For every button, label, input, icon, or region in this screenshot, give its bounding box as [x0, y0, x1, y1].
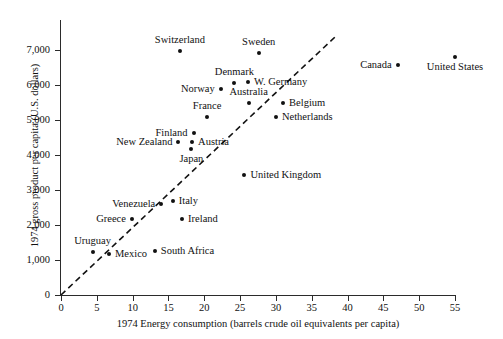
- data-point-label: Japan: [179, 154, 203, 165]
- x-tick-mark: [133, 296, 134, 301]
- y-tick-mark: [55, 190, 61, 191]
- x-tick-label: 35: [292, 303, 332, 314]
- data-point-label: Netherlands: [282, 111, 333, 122]
- x-tick-label: 50: [399, 303, 439, 314]
- y-tick-mark: [55, 260, 61, 261]
- x-tick-label: 25: [220, 303, 260, 314]
- y-tick-label: 3,000: [0, 185, 50, 196]
- data-point: [219, 87, 223, 91]
- x-axis-title: 1974 Energy consumption (barrels crude o…: [60, 318, 456, 329]
- data-point-label: Norway: [181, 83, 215, 94]
- data-point-label: United States: [427, 62, 483, 73]
- x-tick-mark: [204, 296, 205, 301]
- data-point: [178, 49, 182, 53]
- data-point: [281, 101, 285, 105]
- data-point-label: Belgium: [289, 98, 325, 109]
- data-point-label: Italy: [179, 196, 198, 207]
- x-tick-label: 55: [435, 303, 475, 314]
- data-point-label: Ireland: [188, 213, 218, 224]
- data-point: [180, 217, 184, 221]
- x-tick-mark: [312, 296, 313, 301]
- plot-area: 01,0002,0003,0004,0005,0006,0007,000 051…: [0, 0, 503, 339]
- data-point: [153, 249, 157, 253]
- data-point-label: France: [193, 101, 222, 112]
- y-tick-label: 7,000: [0, 45, 50, 56]
- data-point: [189, 147, 193, 151]
- y-tick-label: 2,000: [0, 220, 50, 231]
- x-tick-label: 20: [184, 303, 224, 314]
- x-tick-label: 30: [256, 303, 296, 314]
- x-tick-label: 15: [148, 303, 188, 314]
- x-tick-mark: [97, 296, 98, 301]
- data-point-label: South Africa: [161, 246, 214, 257]
- y-tick-label: 0: [0, 290, 50, 301]
- data-point: [107, 252, 111, 256]
- data-point: [242, 173, 246, 177]
- x-tick-mark: [419, 296, 420, 301]
- data-point: [257, 51, 261, 55]
- data-point: [396, 63, 400, 67]
- y-tick-mark: [55, 85, 61, 86]
- x-tick-mark: [61, 296, 62, 301]
- data-point: [247, 101, 251, 105]
- data-point-label: United Kingdom: [250, 170, 321, 181]
- scatter-plot-figure: 01,0002,0003,0004,0005,0006,0007,000 051…: [0, 0, 503, 339]
- x-tick-mark: [455, 296, 456, 301]
- y-tick-label: 5,000: [0, 115, 50, 126]
- x-tick-label: 0: [41, 303, 81, 314]
- data-point: [246, 80, 250, 84]
- data-point: [190, 140, 194, 144]
- data-point-label: Mexico: [115, 248, 147, 259]
- data-point-label: Greece: [96, 213, 126, 224]
- y-axis-line: [60, 20, 61, 296]
- data-point: [205, 115, 209, 119]
- x-tick-mark: [240, 296, 241, 301]
- data-point-label: Canada: [360, 60, 392, 71]
- data-point-label: Switzerland: [155, 34, 205, 45]
- data-point: [91, 250, 95, 254]
- data-point-label: Austria: [198, 136, 229, 147]
- x-tick-label: 45: [363, 303, 403, 314]
- data-point-label: Venezuela: [112, 199, 155, 210]
- y-tick-mark: [55, 155, 61, 156]
- x-tick-label: 10: [113, 303, 153, 314]
- data-point-label: Denmark: [215, 66, 254, 77]
- data-point-label: Uruguay: [74, 236, 111, 247]
- y-tick-label: 4,000: [0, 150, 50, 161]
- x-tick-mark: [168, 296, 169, 301]
- y-tick-mark: [55, 50, 61, 51]
- data-point: [130, 217, 134, 221]
- data-point: [176, 140, 180, 144]
- x-tick-mark: [348, 296, 349, 301]
- x-tick-label: 5: [77, 303, 117, 314]
- data-point: [159, 202, 163, 206]
- data-point: [192, 131, 196, 135]
- data-point-label: Sweden: [242, 36, 275, 47]
- y-tick-label: 1,000: [0, 255, 50, 266]
- y-tick-mark: [55, 120, 61, 121]
- data-point: [453, 55, 457, 59]
- y-tick-mark: [55, 225, 61, 226]
- data-point: [171, 199, 175, 203]
- x-tick-label: 40: [328, 303, 368, 314]
- x-axis-line: [60, 295, 456, 296]
- data-point-label: Australia: [229, 86, 268, 97]
- x-tick-mark: [383, 296, 384, 301]
- x-tick-mark: [276, 296, 277, 301]
- y-tick-label: 6,000: [0, 80, 50, 91]
- y-axis-title: 1974 gross product per capita (U.S. doll…: [29, 26, 40, 286]
- data-point: [274, 115, 278, 119]
- data-point-label: New Zealand: [116, 136, 172, 147]
